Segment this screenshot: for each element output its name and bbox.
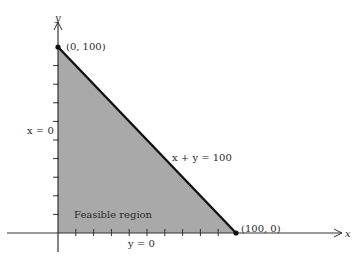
vertex-point-top: [55, 44, 60, 49]
vertex-label-top: (0, 100): [66, 41, 106, 52]
line-constraint-label: x + y = 100: [172, 152, 232, 163]
y-axis-constraint-label: x = 0: [27, 125, 54, 136]
vertex-point-right: [233, 230, 238, 235]
feasible-region-label: Feasible region: [74, 209, 153, 220]
x-axis-label: x: [345, 228, 351, 239]
x-axis-constraint-label: y = 0: [127, 238, 155, 249]
feasible-region-figure: y x (0, 100) (100, 0) x = 0 y = 0 x + y …: [0, 0, 359, 269]
vertex-label-right: (100, 0): [241, 223, 281, 234]
y-axis-label: y: [54, 12, 61, 23]
